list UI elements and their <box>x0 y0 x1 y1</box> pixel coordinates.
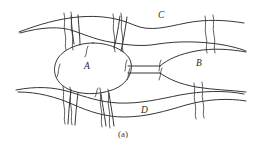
rung-line <box>202 82 204 118</box>
a-d-tube-left-wall-2 <box>75 93 78 125</box>
line-diagram <box>0 0 258 149</box>
oval-outline <box>55 43 132 94</box>
rung-pair-c-left <box>64 12 73 50</box>
oval-accent-ticks <box>57 46 98 97</box>
rung-line <box>194 83 196 119</box>
upper-band-boundaries <box>19 16 246 51</box>
rung-line <box>63 86 65 124</box>
lower-band-boundaries <box>16 88 246 117</box>
connector-a-to-d <box>68 90 114 126</box>
region-label-d: D <box>141 106 148 116</box>
a-c-tube-left-wall-2 <box>78 15 80 45</box>
d-bottom-boundary-curve <box>18 92 246 117</box>
c-bottom-boundary-curve <box>20 28 246 51</box>
region-label-a: A <box>84 62 90 72</box>
region-a-oval <box>55 43 132 94</box>
region-label-b: B <box>196 59 202 69</box>
accent-tick <box>95 88 98 97</box>
rung-line <box>121 13 123 52</box>
rung-line <box>100 88 102 127</box>
rung-pair-d-left <box>63 86 72 125</box>
accent-tick <box>57 64 60 77</box>
ab-tube-left-end-tick-upper <box>125 60 127 71</box>
rung-line <box>205 16 207 53</box>
b-upper-wall <box>160 49 246 66</box>
c-top-boundary-curve <box>19 16 244 32</box>
connector-a-to-c <box>71 15 127 51</box>
region-label-c: C <box>158 11 164 21</box>
accent-tick <box>85 46 88 57</box>
figure-caption: (a) <box>118 130 128 139</box>
figure-container: A B C D (a) <box>0 0 258 149</box>
